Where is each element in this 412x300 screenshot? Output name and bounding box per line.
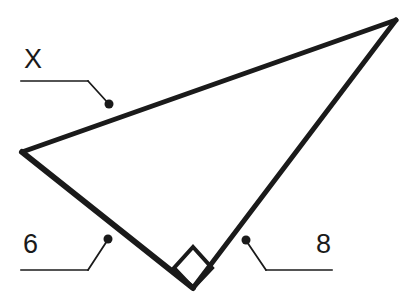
side-label-x: X bbox=[24, 44, 42, 74]
leader-line-6-diagonal bbox=[88, 241, 107, 270]
side-label-8: 8 bbox=[316, 229, 331, 259]
triangle-diagram: X 6 8 bbox=[0, 0, 412, 300]
leader-line-8-diagonal bbox=[247, 242, 266, 270]
label-group-6: 6 bbox=[21, 229, 113, 270]
triangle-shape bbox=[22, 20, 396, 288]
label-group-x: X bbox=[21, 44, 114, 109]
side-label-6: 6 bbox=[23, 229, 38, 259]
diagram-canvas: X 6 8 bbox=[0, 0, 412, 300]
label-group-8: 8 bbox=[242, 229, 333, 270]
leader-line-x-diagonal bbox=[88, 81, 108, 103]
leader-dot-8 bbox=[242, 236, 251, 245]
leader-dot-6 bbox=[104, 235, 113, 244]
leader-dot-x bbox=[105, 100, 114, 109]
